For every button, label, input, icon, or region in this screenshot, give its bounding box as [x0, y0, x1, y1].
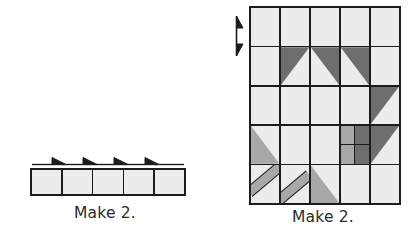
block-cell-r5c2: [281, 165, 309, 203]
triangle-dark: [341, 47, 369, 85]
pressing-arrow-right-icon: [94, 158, 128, 165]
triangle-dark: [281, 47, 309, 85]
diagram-canvas: Make 2.: [0, 0, 418, 248]
block-cell-r5c4: [341, 165, 369, 203]
strip-patch-3: [93, 170, 122, 194]
pressing-arrow-updown-icon: [228, 14, 244, 58]
block-cell-r3c1: [251, 87, 279, 125]
block-cell-r4c3: [311, 126, 339, 164]
block-cell-r3c3: [311, 87, 339, 125]
block-unit: Make 2.: [228, 0, 418, 248]
block-unit-caption: Make 2.: [228, 208, 418, 226]
block-cell-r2c3: [311, 47, 339, 85]
strip-patch-1: [32, 170, 61, 194]
four-patch-q2: [355, 126, 369, 144]
block-cell-r5c3: [311, 165, 339, 203]
block-cell-r1c5: [371, 8, 399, 46]
block-cell-r4c4: [341, 126, 369, 164]
block-cell-r2c1: [251, 47, 279, 85]
strip-unit: Make 2.: [0, 140, 210, 248]
triangle-dark: [371, 126, 399, 164]
block-cell-r5c1: [251, 165, 279, 203]
block-cell-r4c1: [251, 126, 279, 164]
block-cell-r1c2: [281, 8, 309, 46]
block-cell-r1c1: [251, 8, 279, 46]
four-patch-q4: [355, 145, 369, 163]
strip-patch-4: [124, 170, 153, 194]
pressing-arrow-right-icon: [63, 158, 97, 165]
strip-unit-caption: Make 2.: [0, 204, 210, 222]
strip-patch-2: [63, 170, 92, 194]
block-cell-r3c5: [371, 87, 399, 125]
block-cell-r4c2: [281, 126, 309, 164]
triangle-dark: [371, 87, 399, 125]
pressing-arrow-right-icon: [32, 158, 66, 165]
stem-diagonal: [251, 165, 279, 203]
block-cell-r2c5: [371, 47, 399, 85]
block-cell-r5c5: [371, 165, 399, 203]
strip-patch-5: [155, 170, 184, 194]
four-patch-q3: [341, 145, 355, 163]
block-cell-r4c5: [371, 126, 399, 164]
stem-diagonal: [281, 165, 309, 203]
block-cell-r1c3: [311, 8, 339, 46]
pressing-arrow-right-icon: [125, 158, 159, 165]
strip-patch-row: [30, 168, 186, 196]
block-cell-r2c4: [341, 47, 369, 85]
four-patch-q1: [341, 126, 355, 144]
block-cell-r3c2: [281, 87, 309, 125]
triangle-medium: [251, 126, 279, 164]
block-patch-grid: [249, 6, 401, 205]
triangle-dark: [311, 47, 339, 85]
four-patch: [341, 126, 369, 164]
block-cell-r1c4: [341, 8, 369, 46]
triangle-medium: [311, 165, 339, 203]
block-cell-r2c2: [281, 47, 309, 85]
block-cell-r3c4: [341, 87, 369, 125]
